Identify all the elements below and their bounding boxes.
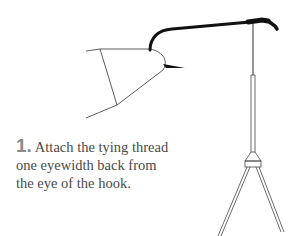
hook-point [163,64,185,68]
step-number: 1. [16,135,32,156]
hook [150,20,277,50]
fly-tying-illustration [0,0,300,236]
step-text-line-1: Attach the tying thread [35,139,168,155]
step-text-line-3: the eye of the hook. [16,175,131,191]
bobbin-holder [218,75,284,236]
vise-jaw-outline [86,49,165,118]
step-text-line-2: one eyewidth back from [16,157,157,173]
step-caption: 1.Attach the tying thread one eyewidth b… [16,137,206,192]
